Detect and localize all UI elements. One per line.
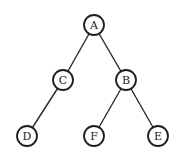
node-a: A xyxy=(84,15,104,35)
node-e-label: E xyxy=(154,130,162,143)
edges-group xyxy=(27,25,158,136)
node-a-label: A xyxy=(89,19,99,32)
node-d-label: D xyxy=(23,130,32,143)
node-d: D xyxy=(17,126,37,146)
tree-svg: A C B D F E xyxy=(0,0,181,160)
node-b-label: B xyxy=(122,74,130,87)
tree-diagram: A C B D F E xyxy=(0,0,181,160)
node-b: B xyxy=(116,70,136,90)
node-f: F xyxy=(84,126,104,146)
node-e: E xyxy=(148,126,168,146)
node-c: C xyxy=(53,70,73,90)
node-f-label: F xyxy=(90,130,98,143)
node-c-label: C xyxy=(59,74,67,87)
nodes-group: A C B D F E xyxy=(17,15,168,146)
